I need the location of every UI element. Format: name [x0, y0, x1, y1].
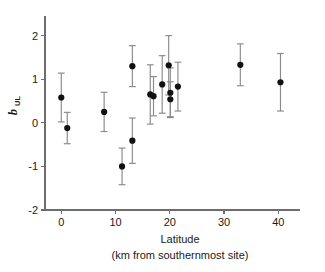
y-tick-label: -2 — [28, 204, 38, 216]
data-point-marker — [129, 138, 135, 144]
data-point-marker — [167, 90, 173, 96]
data-point-marker — [150, 93, 156, 99]
data-point-marker — [58, 94, 64, 100]
x-tick-label: 0 — [58, 216, 64, 228]
data-point-marker — [159, 81, 165, 87]
scatter-chart-figure: -2-1012 010203040 b UL Latitude (km from… — [0, 0, 325, 272]
x-tick-label: 10 — [109, 216, 121, 228]
x-axis-title-line1: Latitude — [160, 233, 199, 245]
x-tick-label: 30 — [218, 216, 230, 228]
y-tick-label: 0 — [32, 117, 38, 129]
y-tick-label: 2 — [32, 30, 38, 42]
data-point-marker — [64, 125, 70, 131]
data-point-marker — [166, 62, 172, 68]
y-tick-label: -1 — [28, 160, 38, 172]
data-point-marker — [167, 96, 173, 102]
figure-background — [0, 0, 325, 272]
data-point-marker — [129, 63, 135, 69]
x-tick-label: 40 — [272, 216, 284, 228]
x-axis-title-line2: (km from southernmost site) — [112, 249, 249, 261]
data-point-marker — [119, 163, 125, 169]
data-point-marker — [237, 62, 243, 68]
data-point-marker — [175, 84, 181, 90]
y-axis-title-subscript: UL — [13, 96, 22, 106]
x-tick-label: 20 — [164, 216, 176, 228]
y-tick-label: 1 — [32, 73, 38, 85]
y-axis-title-text: b — [6, 109, 20, 115]
data-point-marker — [277, 79, 283, 85]
data-point-marker — [101, 109, 107, 115]
